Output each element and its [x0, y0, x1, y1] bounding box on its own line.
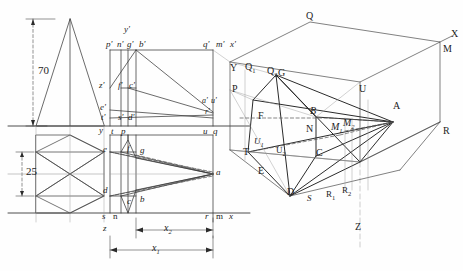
projection-front-view	[110, 50, 213, 126]
label-G: G	[278, 68, 285, 78]
label-g: g	[140, 146, 145, 155]
label-E: E	[258, 166, 264, 176]
top-view-hexagon	[8, 135, 104, 213]
label-T: T	[243, 147, 249, 157]
label-D: D	[287, 187, 294, 197]
label-Q: Q	[306, 11, 313, 21]
label-p: p	[121, 127, 126, 136]
label-A: A	[393, 101, 400, 111]
label-M: M	[443, 44, 452, 54]
label-q: q	[213, 127, 218, 136]
label-e-prime: e'	[100, 103, 106, 112]
label-d-prime: d'	[128, 113, 134, 122]
label-d: d	[103, 186, 108, 195]
label-x: x	[229, 212, 233, 221]
label-m: m	[216, 212, 223, 221]
label-Q1: Q1	[245, 62, 255, 75]
label-p-prime: p'	[106, 40, 112, 49]
dimension-label-x2: x2	[164, 223, 172, 236]
label-R1: R1	[326, 190, 335, 201]
label-Z: Z	[355, 222, 361, 232]
label-c-prime: c'	[129, 81, 135, 90]
label-s-prime: s'	[118, 113, 123, 122]
label-a-prime: a'	[202, 97, 208, 105]
dimension-label-70: 70	[38, 65, 49, 76]
dimension-x2-group	[136, 218, 213, 238]
label-U: U	[359, 84, 366, 94]
label-M2: M2	[343, 118, 355, 131]
label-r-prime: r'	[205, 108, 210, 116]
label-z-prime: z'	[99, 81, 104, 90]
label-q-prime: q'	[203, 40, 209, 49]
label-R: R	[443, 126, 450, 136]
label-y-prime: y'	[124, 25, 130, 34]
label-t-prime: t'	[101, 113, 105, 122]
label-z: z	[103, 224, 107, 233]
label-t: t	[111, 127, 114, 136]
label-x-prime: x'	[230, 40, 236, 49]
label-B: B	[310, 106, 316, 116]
drawing-canvas: 70 25 x2 x1 y' p' n' g' b' q' m' x' z' f…	[0, 0, 463, 271]
label-g-prime: g'	[127, 40, 133, 49]
label-F: F	[258, 111, 264, 121]
dimension-label-x1: x1	[152, 243, 160, 256]
label-Y: Y	[230, 63, 237, 73]
label-m-prime: m'	[216, 40, 224, 49]
axonometric-solid	[248, 75, 393, 196]
label-b: b	[140, 195, 145, 204]
label-a: a	[216, 168, 221, 177]
label-S: S	[307, 194, 312, 203]
dimension-x1-group	[110, 236, 213, 258]
label-c: c	[127, 197, 131, 206]
label-R2: R2	[342, 186, 351, 197]
label-r: r	[205, 212, 209, 221]
label-Q2: Q2	[267, 66, 277, 79]
label-f: f	[127, 144, 130, 153]
label-U1: U1	[254, 137, 264, 148]
label-P: P	[232, 84, 238, 94]
label-f-prime: f'	[118, 81, 122, 90]
label-C: C	[316, 148, 323, 158]
label-e: e	[103, 145, 107, 154]
label-n: n	[113, 212, 118, 221]
label-U2: U2	[276, 146, 286, 157]
dimension-label-25: 25	[26, 166, 37, 177]
label-n-prime: n'	[117, 40, 123, 49]
label-y: y	[99, 126, 103, 135]
label-u: u	[203, 127, 208, 136]
label-N: N	[306, 124, 313, 134]
label-u-prime: u'	[211, 97, 217, 105]
label-X: X	[451, 29, 458, 39]
label-b-prime: b'	[139, 40, 145, 49]
label-s: s	[102, 212, 106, 221]
label-M1: M1	[331, 122, 343, 135]
